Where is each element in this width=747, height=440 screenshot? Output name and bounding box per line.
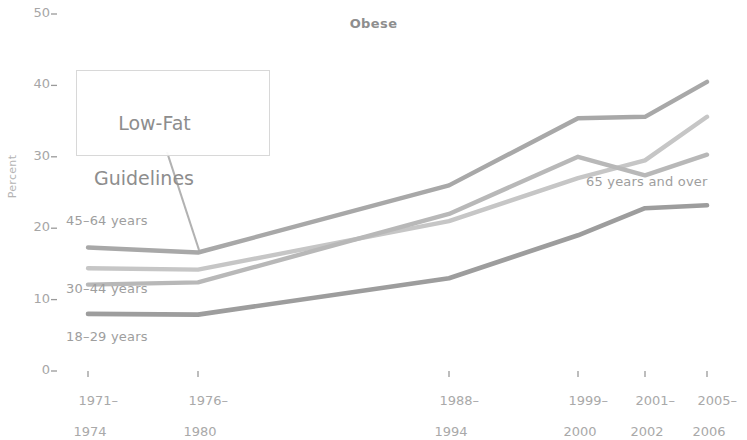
x-tick-line1: 1976– xyxy=(188,393,228,408)
x-tick-line1: 1971– xyxy=(78,393,118,408)
chart-title: Obese xyxy=(0,16,747,31)
y-tick-marks xyxy=(51,14,57,371)
callout-line1: Low-Fat xyxy=(118,112,191,134)
x-tick-1976-1980: 1976– 1980 xyxy=(140,378,260,440)
series-label-18-29-years: 18–29 years xyxy=(66,329,148,344)
x-tick-line1: 1988– xyxy=(439,393,479,408)
x-tick-1988-1994: 1988– 1994 xyxy=(391,378,511,440)
x-tick-line2: 1974 xyxy=(30,424,150,439)
x-tick-line2: 1994 xyxy=(391,424,511,439)
series-label-30-44-years: 30–44 years xyxy=(66,281,148,296)
x-tick-1971-1974: 1971– 1974 xyxy=(30,378,150,440)
callout-line2: Guidelines xyxy=(94,165,194,193)
series-label-65-years-and-over: 65 years and over xyxy=(586,174,708,189)
x-tick-line2: 2006 xyxy=(649,424,747,439)
low-fat-guidelines-callout-text: Low-Fat Guidelines xyxy=(94,82,194,247)
x-tick-line1: 2005– xyxy=(697,393,737,408)
x-tick-2005-2006: 2005– 2006 xyxy=(649,378,747,440)
x-tick-line2: 1980 xyxy=(140,424,260,439)
x-tick-marks xyxy=(88,371,707,377)
